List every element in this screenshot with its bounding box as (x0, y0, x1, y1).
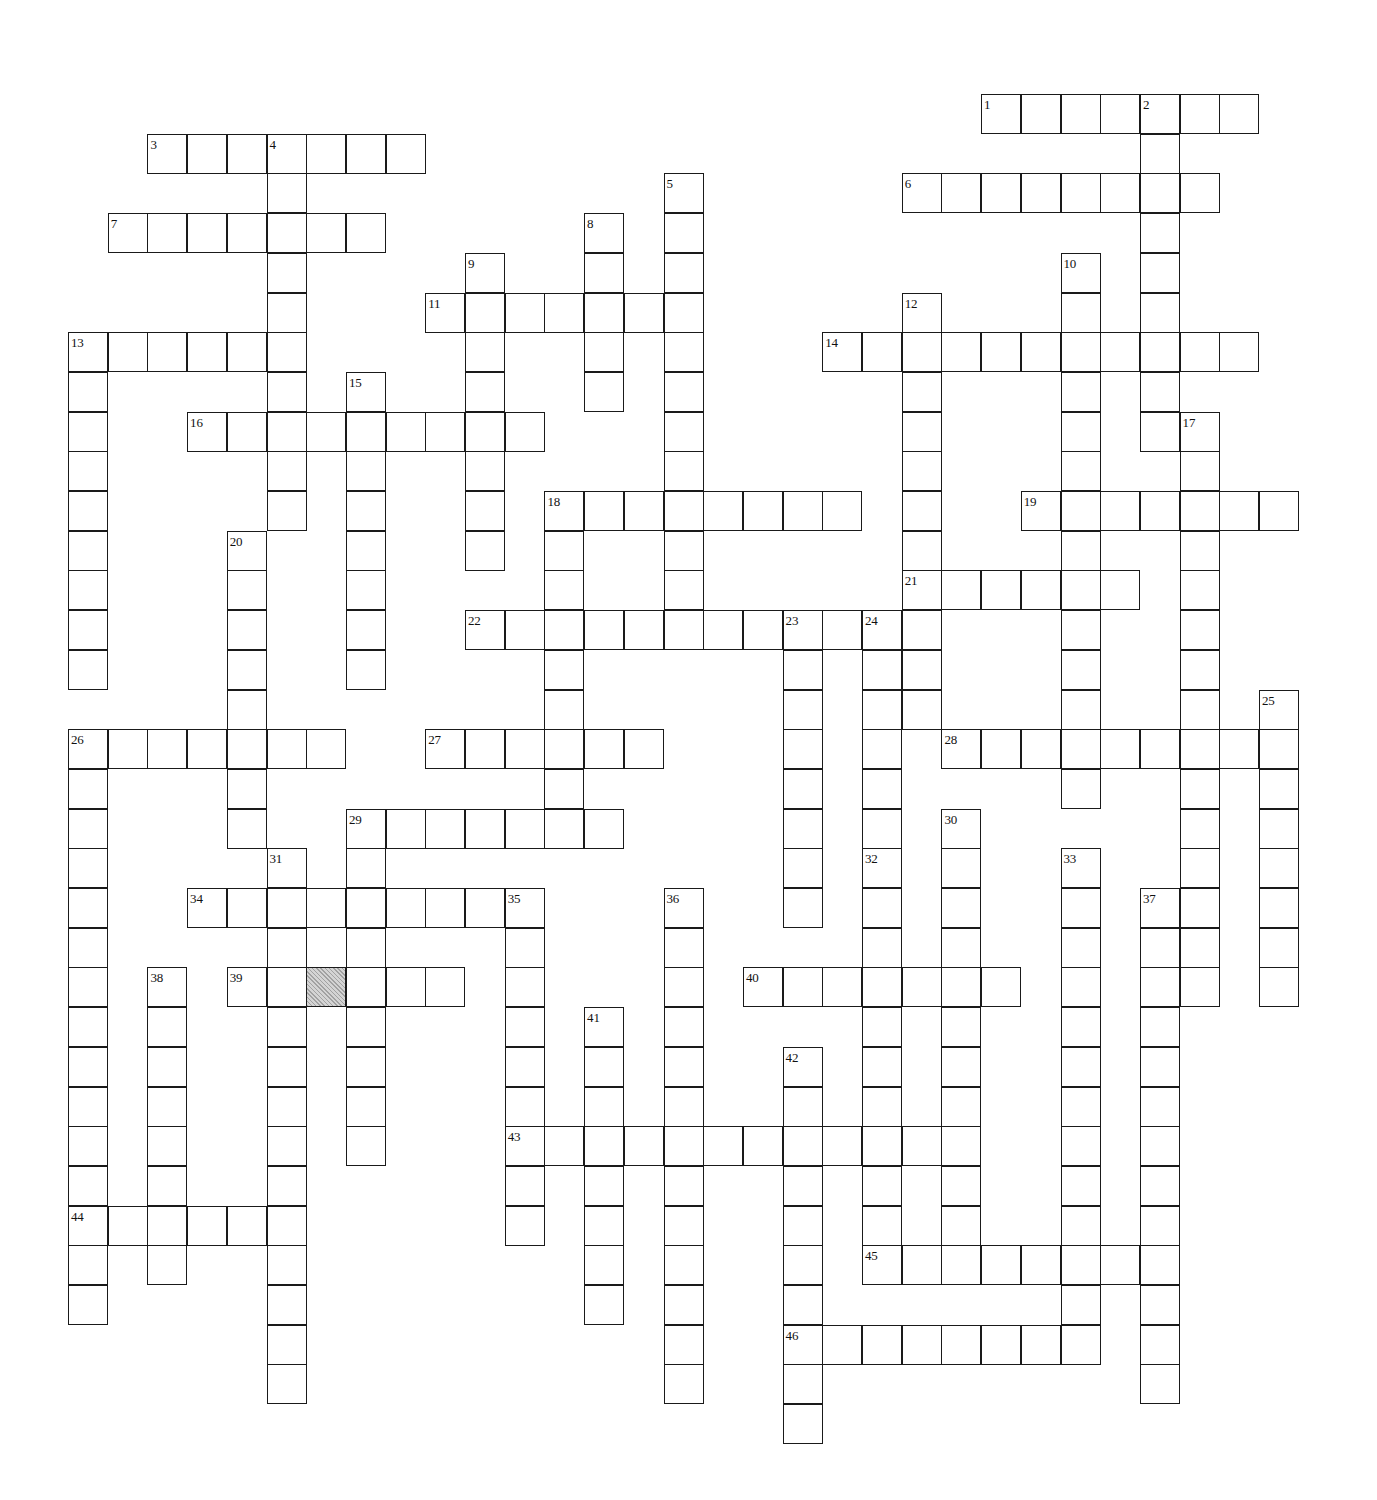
crossword-cell[interactable] (1100, 94, 1140, 134)
crossword-cell[interactable] (505, 1047, 545, 1087)
crossword-cell[interactable] (941, 1087, 981, 1127)
crossword-cell[interactable] (1100, 332, 1140, 372)
crossword-cell[interactable] (941, 1166, 981, 1206)
crossword-cell[interactable] (68, 1007, 108, 1047)
crossword-cell[interactable] (1140, 94, 1180, 134)
crossword-cell[interactable] (267, 928, 307, 968)
crossword-cell[interactable] (624, 729, 664, 769)
crossword-cell[interactable] (1180, 451, 1220, 491)
crossword-cell[interactable] (902, 412, 942, 452)
crossword-cell[interactable] (1140, 1364, 1180, 1404)
crossword-cell[interactable] (1021, 1325, 1061, 1365)
crossword-cell[interactable] (68, 1126, 108, 1166)
crossword-cell[interactable] (425, 412, 465, 452)
crossword-cell[interactable] (1061, 1087, 1101, 1127)
crossword-cell[interactable] (267, 293, 307, 333)
crossword-cell[interactable] (267, 967, 307, 1007)
crossword-cell[interactable] (624, 491, 664, 531)
crossword-cell[interactable] (68, 1206, 108, 1246)
crossword-cell[interactable] (544, 690, 584, 730)
crossword-cell[interactable] (1180, 650, 1220, 690)
crossword-cell[interactable] (68, 1245, 108, 1285)
crossword-cell[interactable] (1140, 1245, 1180, 1285)
crossword-cell[interactable] (1061, 451, 1101, 491)
crossword-cell[interactable] (783, 1087, 823, 1127)
crossword-cell[interactable] (1180, 491, 1220, 531)
crossword-cell[interactable] (862, 848, 902, 888)
crossword-cell[interactable] (862, 1126, 902, 1166)
crossword-cell[interactable] (664, 1007, 704, 1047)
crossword-cell[interactable] (147, 1245, 187, 1285)
crossword-cell[interactable] (862, 1325, 902, 1365)
crossword-cell[interactable] (267, 332, 307, 372)
crossword-cell[interactable] (783, 690, 823, 730)
crossword-cell[interactable] (147, 1206, 187, 1246)
crossword-cell[interactable] (346, 134, 386, 174)
crossword-cell[interactable] (584, 1166, 624, 1206)
crossword-cell[interactable] (227, 967, 267, 1007)
crossword-cell[interactable] (68, 650, 108, 690)
crossword-cell[interactable] (147, 1126, 187, 1166)
crossword-cell[interactable] (822, 491, 862, 531)
crossword-cell[interactable] (465, 412, 505, 452)
crossword-cell[interactable] (822, 332, 862, 372)
crossword-cell[interactable] (862, 928, 902, 968)
crossword-cell[interactable] (1180, 967, 1220, 1007)
crossword-cell[interactable] (783, 1047, 823, 1087)
crossword-cell[interactable] (505, 1166, 545, 1206)
crossword-cell[interactable] (267, 1206, 307, 1246)
crossword-cell[interactable] (941, 1245, 981, 1285)
crossword-cell[interactable] (1140, 372, 1180, 412)
crossword-cell[interactable] (1180, 848, 1220, 888)
crossword-cell[interactable] (902, 372, 942, 412)
crossword-cell[interactable] (1259, 769, 1299, 809)
crossword-cell[interactable] (108, 1206, 148, 1246)
crossword-cell[interactable] (624, 1126, 664, 1166)
crossword-cell[interactable] (1061, 769, 1101, 809)
crossword-cell[interactable] (584, 729, 624, 769)
crossword-cell[interactable] (1061, 650, 1101, 690)
crossword-cell[interactable] (981, 570, 1021, 610)
crossword-cell[interactable] (584, 293, 624, 333)
crossword-cell[interactable] (68, 1285, 108, 1325)
crossword-cell[interactable] (267, 213, 307, 253)
crossword-cell[interactable] (1180, 690, 1220, 730)
crossword-cell[interactable] (584, 213, 624, 253)
crossword-cell[interactable] (346, 888, 386, 928)
crossword-cell[interactable] (68, 809, 108, 849)
crossword-cell[interactable] (941, 848, 981, 888)
crossword-cell[interactable] (1140, 1047, 1180, 1087)
crossword-cell[interactable] (147, 1047, 187, 1087)
crossword-cell[interactable] (902, 610, 942, 650)
crossword-cell[interactable] (1140, 1325, 1180, 1365)
crossword-cell[interactable] (584, 1126, 624, 1166)
crossword-cell[interactable] (465, 451, 505, 491)
crossword-cell[interactable] (902, 451, 942, 491)
crossword-cell[interactable] (267, 412, 307, 452)
crossword-cell[interactable] (425, 729, 465, 769)
crossword-cell[interactable] (783, 1166, 823, 1206)
crossword-cell[interactable] (664, 332, 704, 372)
crossword-cell[interactable] (108, 729, 148, 769)
crossword-cell[interactable] (862, 967, 902, 1007)
crossword-cell[interactable] (862, 1047, 902, 1087)
crossword-cell[interactable] (227, 690, 267, 730)
crossword-cell[interactable] (584, 491, 624, 531)
crossword-cell[interactable] (783, 769, 823, 809)
crossword-cell[interactable] (1219, 94, 1259, 134)
crossword-cell[interactable] (306, 967, 346, 1007)
crossword-cell[interactable] (783, 848, 823, 888)
crossword-cell[interactable] (1259, 729, 1299, 769)
crossword-cell[interactable] (862, 1087, 902, 1127)
crossword-cell[interactable] (306, 213, 346, 253)
crossword-cell[interactable] (267, 729, 307, 769)
crossword-cell[interactable] (902, 1245, 942, 1285)
crossword-cell[interactable] (1140, 253, 1180, 293)
crossword-cell[interactable] (941, 1047, 981, 1087)
crossword-cell[interactable] (664, 1285, 704, 1325)
crossword-cell[interactable] (1061, 729, 1101, 769)
crossword-cell[interactable] (862, 1166, 902, 1206)
crossword-cell[interactable] (267, 173, 307, 213)
crossword-cell[interactable] (664, 888, 704, 928)
crossword-cell[interactable] (267, 1245, 307, 1285)
